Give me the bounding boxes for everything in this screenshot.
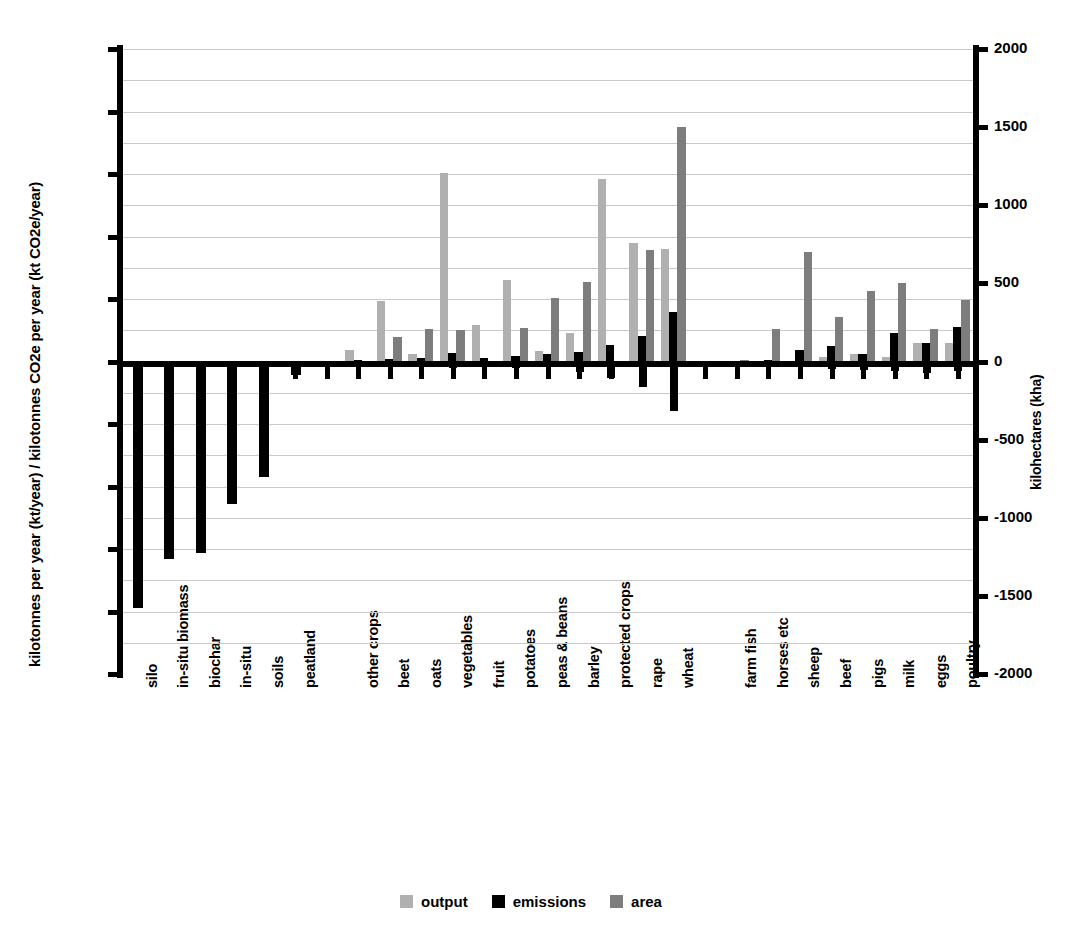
bar-area (520, 328, 528, 362)
bar-emissions (164, 362, 174, 560)
y-tick-right (978, 672, 988, 677)
y-tick-right (978, 360, 988, 365)
y-tick-left (108, 547, 118, 552)
bar-output (913, 343, 921, 362)
x-tick (356, 365, 361, 379)
legend-item[interactable]: output (400, 893, 468, 910)
y-tick-label-right: -2000 (994, 664, 1032, 681)
bar-area (425, 329, 433, 362)
bar-area (930, 329, 938, 362)
y-axis-left-title: kilotonnes per year (kt/year) / kilotonn… (26, 182, 43, 667)
y-tick-right (978, 203, 988, 208)
bar-area (898, 283, 906, 362)
bar-emissions (133, 362, 143, 608)
bar-output (472, 325, 480, 361)
y-tick-label-right: -1000 (994, 508, 1032, 525)
y-tick-right (978, 47, 988, 52)
y-tick-left (108, 297, 118, 302)
legend-item[interactable]: emissions (492, 893, 586, 910)
y-tick-right (978, 594, 988, 599)
bar-output (629, 243, 637, 361)
y-tick-right (978, 281, 988, 286)
bar-area (772, 329, 780, 362)
x-tick (766, 365, 771, 379)
bar-emissions (227, 362, 237, 505)
bar-output (377, 301, 385, 362)
y-tick-right (978, 125, 988, 130)
x-tick (735, 365, 740, 379)
chart-root: kilotonnes per year (kt/year) / kilotonn… (0, 0, 1076, 947)
bar-output (440, 173, 448, 361)
y-tick-label-right: 500 (994, 273, 1019, 290)
y-tick-right (978, 438, 988, 443)
bar-area (456, 330, 464, 361)
bar-output (503, 280, 511, 362)
legend-label: area (631, 893, 662, 910)
y-tick-label-right: 1500 (994, 117, 1027, 134)
x-tick (482, 365, 487, 379)
y-tick-label-right: 0 (994, 352, 1002, 369)
bar-area (961, 300, 969, 361)
y-tick-left (108, 485, 118, 490)
y-tick-label-right: 1000 (994, 195, 1027, 212)
bar-emissions (669, 312, 677, 361)
y-tick-right (978, 516, 988, 521)
x-axis-zero-line (117, 361, 979, 367)
y-tick-left (108, 360, 118, 365)
bar-emissions (606, 345, 614, 361)
bar-emissions (953, 327, 961, 361)
y-tick-left (108, 172, 118, 177)
bar-output (661, 249, 669, 362)
bar-area (835, 317, 843, 361)
y-tick-label-right: -1500 (994, 586, 1032, 603)
y-tick-label-right: 2000 (994, 39, 1027, 56)
bar-emissions (196, 362, 206, 553)
y-tick-left (108, 235, 118, 240)
y-tick-left (108, 672, 118, 677)
y-tick-left (108, 610, 118, 615)
bar-area (583, 282, 591, 361)
legend-swatch-emissions (492, 895, 505, 908)
y-tick-left (108, 47, 118, 52)
bar-emissions (890, 333, 898, 362)
legend-label: emissions (513, 893, 586, 910)
bar-area (677, 127, 685, 362)
bar-area (804, 252, 812, 362)
bar-area (551, 298, 559, 362)
bar-output (945, 343, 953, 361)
y-tick-left (108, 110, 118, 115)
bar-area (393, 337, 401, 362)
bar-output (535, 351, 543, 362)
y-tick-label-right: -500 (994, 430, 1024, 447)
chart-legend: outputemissionsarea (0, 893, 1076, 910)
bar-output (566, 333, 574, 361)
x-tick (419, 365, 424, 379)
legend-swatch-output (400, 895, 413, 908)
bar-area (867, 291, 875, 362)
y-tick-left (108, 422, 118, 427)
bar-emissions (827, 346, 835, 362)
bar-output (345, 350, 353, 361)
legend-label: output (421, 893, 468, 910)
bar-emissions (922, 343, 930, 362)
bar-output (598, 179, 606, 362)
x-tick (703, 365, 708, 379)
bar-emissions-negative (670, 362, 678, 411)
x-tick (325, 365, 330, 379)
x-tick (546, 365, 551, 379)
plot-area (122, 49, 974, 674)
bar-emissions (259, 362, 269, 477)
bar-emissions (795, 350, 803, 362)
y-axis-right-title: kilohectares (kha) (1028, 375, 1044, 490)
bar-emissions (638, 336, 646, 362)
bar-area (646, 250, 654, 361)
legend-swatch-area (610, 895, 623, 908)
legend-item[interactable]: area (610, 893, 662, 910)
